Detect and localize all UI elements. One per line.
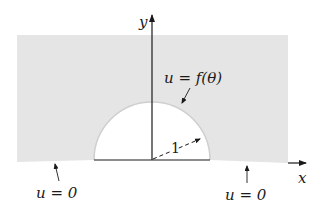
- arc-boundary-label: u = f(θ): [164, 69, 222, 87]
- radius-label: 1: [171, 140, 180, 156]
- half-plane-diagram: x y 1 u = f(θ) u = 0 u = 0: [0, 0, 321, 215]
- left-boundary-label: u = 0: [36, 184, 78, 202]
- y-axis-label: y: [138, 13, 148, 31]
- x-axis-label: x: [298, 169, 307, 187]
- left-boundary-pointer-arrow: [55, 164, 59, 181]
- right-boundary-label: u = 0: [225, 186, 267, 204]
- diagram-canvas: x y 1 u = f(θ) u = 0 u = 0: [0, 0, 321, 215]
